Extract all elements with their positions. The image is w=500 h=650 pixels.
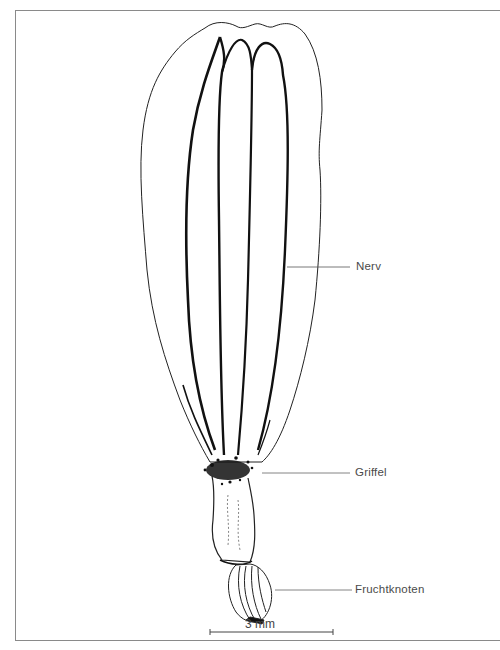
label-fruchtknoten: Fruchtknoten	[355, 583, 425, 595]
nerve-1	[186, 37, 220, 450]
label-nerv: Nerv	[356, 260, 381, 272]
scale-bar-label: 3 mm	[245, 617, 275, 631]
nerve-3	[222, 40, 252, 455]
petal-outline	[141, 23, 322, 463]
nerve-inner-left	[183, 385, 212, 455]
nerve-4	[252, 43, 288, 450]
nerve-2	[218, 37, 224, 455]
griffel-stipple	[204, 456, 254, 485]
ovary	[228, 564, 271, 624]
label-griffel: Griffel	[355, 466, 387, 478]
style-column	[212, 476, 255, 562]
